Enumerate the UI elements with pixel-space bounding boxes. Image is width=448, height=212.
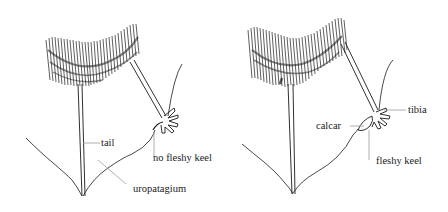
tail-bone: [288, 84, 295, 194]
label-tibia: tibia: [408, 104, 427, 116]
label-tail: tail: [101, 137, 114, 149]
figure-fleshy-keel: tibia calcar fleshy keel: [224, 0, 448, 212]
foot-toes: [372, 108, 390, 129]
fur-body-hatching: [46, 24, 139, 86]
leader-lines: [83, 132, 154, 184]
label-uropatagium: uropatagium: [133, 183, 186, 195]
label-calcar: calcar: [316, 120, 341, 132]
leg-tibia: [341, 42, 378, 112]
calcar-keel: [358, 116, 373, 131]
leg-tibia: [130, 60, 166, 118]
label-no-fleshy-keel: no fleshy keel: [153, 152, 212, 164]
bat-hindlimb-drawing: [0, 0, 224, 212]
uropatagium-edge: [26, 64, 182, 196]
figure-no-fleshy-keel: tail no fleshy keel uropatagium: [0, 0, 224, 212]
tail-bone: [78, 84, 85, 196]
leader-lines: [350, 110, 406, 160]
fur-body-hatching: [248, 18, 347, 87]
label-fleshy-keel: fleshy keel: [376, 155, 422, 167]
